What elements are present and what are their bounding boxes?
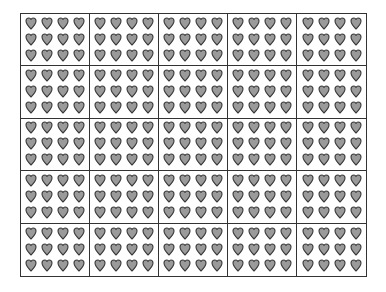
heart-icon [333, 242, 346, 256]
heart-icon [317, 226, 330, 240]
heart-icon [211, 48, 224, 62]
heart-icon [126, 189, 139, 203]
heart-icon [280, 226, 293, 240]
heart-icon [195, 69, 208, 83]
heart-icon [57, 205, 70, 219]
heart-icon [349, 32, 362, 46]
heart-icon [94, 101, 107, 115]
heart-icon [142, 173, 155, 187]
heart-icon [232, 85, 245, 99]
heart-icon [317, 69, 330, 83]
heart-icon [317, 48, 330, 62]
heart-icon [211, 189, 224, 203]
heart-icon [301, 173, 314, 187]
heart-icon [41, 48, 54, 62]
heart-icon [25, 32, 38, 46]
grid-cell [228, 224, 297, 276]
heart-icon [110, 16, 123, 30]
heart-icon [280, 48, 293, 62]
heart-icon [248, 69, 261, 83]
heart-icon [301, 153, 314, 167]
heart-icon [195, 258, 208, 272]
heart-icon [57, 173, 70, 187]
heart-icon [333, 101, 346, 115]
heart-icon [57, 32, 70, 46]
heart-icon [57, 16, 70, 30]
heart-icon [248, 137, 261, 151]
heart-icon [232, 69, 245, 83]
heart-icon [264, 101, 277, 115]
heart-icon [57, 48, 70, 62]
heart-icon [110, 173, 123, 187]
heart-icon [280, 153, 293, 167]
heart-icon [142, 101, 155, 115]
heart-icon [126, 137, 139, 151]
heart-icon [317, 242, 330, 256]
heart-icon [73, 189, 86, 203]
heart-icon [163, 121, 176, 135]
heart-icon [211, 69, 224, 83]
heart-icon [301, 101, 314, 115]
heart-icon [94, 153, 107, 167]
heart-icon [57, 153, 70, 167]
heart-icon [349, 189, 362, 203]
heart-icon [179, 137, 192, 151]
heart-icon [94, 69, 107, 83]
heart-icon [163, 85, 176, 99]
heart-icon [25, 137, 38, 151]
heart-icon [57, 69, 70, 83]
heart-icon [163, 32, 176, 46]
heart-icon [110, 85, 123, 99]
heart-icon [301, 189, 314, 203]
heart-icon [41, 189, 54, 203]
heart-icon [163, 173, 176, 187]
heart-icon [179, 121, 192, 135]
heart-icon [264, 173, 277, 187]
heart-icon [301, 16, 314, 30]
heart-icon [126, 205, 139, 219]
heart-icon [280, 137, 293, 151]
grid-cell [159, 171, 228, 223]
heart-icon [280, 69, 293, 83]
heart-icon [264, 48, 277, 62]
heart-icon [41, 101, 54, 115]
heart-icon [73, 258, 86, 272]
heart-icon [179, 85, 192, 99]
heart-icon [41, 226, 54, 240]
heart-icon [232, 16, 245, 30]
heart-icon [248, 258, 261, 272]
heart-icon [280, 16, 293, 30]
heart-icon [211, 121, 224, 135]
heart-icon [280, 32, 293, 46]
heart-icon [73, 85, 86, 99]
heart-icon [163, 69, 176, 83]
heart-icon [94, 242, 107, 256]
heart-icon [179, 16, 192, 30]
heart-icon [195, 173, 208, 187]
heart-icon [333, 173, 346, 187]
heart-icon [110, 32, 123, 46]
heart-icon [25, 242, 38, 256]
heart-icon [163, 242, 176, 256]
grid-cell [297, 119, 366, 171]
heart-icon [264, 69, 277, 83]
heart-icon [57, 101, 70, 115]
heart-icon [73, 205, 86, 219]
heart-icon [349, 85, 362, 99]
heart-icon [110, 48, 123, 62]
heart-icon [25, 205, 38, 219]
heart-icon [195, 32, 208, 46]
heart-icon [142, 242, 155, 256]
grid-cell [297, 66, 366, 118]
heart-icon [333, 32, 346, 46]
grid-cell [228, 14, 297, 66]
heart-icon [248, 101, 261, 115]
heart-icon [211, 205, 224, 219]
heart-icon [317, 189, 330, 203]
heart-icon [280, 173, 293, 187]
heart-icon [349, 205, 362, 219]
heart-icon [333, 226, 346, 240]
heart-icon [248, 16, 261, 30]
heart-icon [349, 258, 362, 272]
heart-icon [195, 226, 208, 240]
